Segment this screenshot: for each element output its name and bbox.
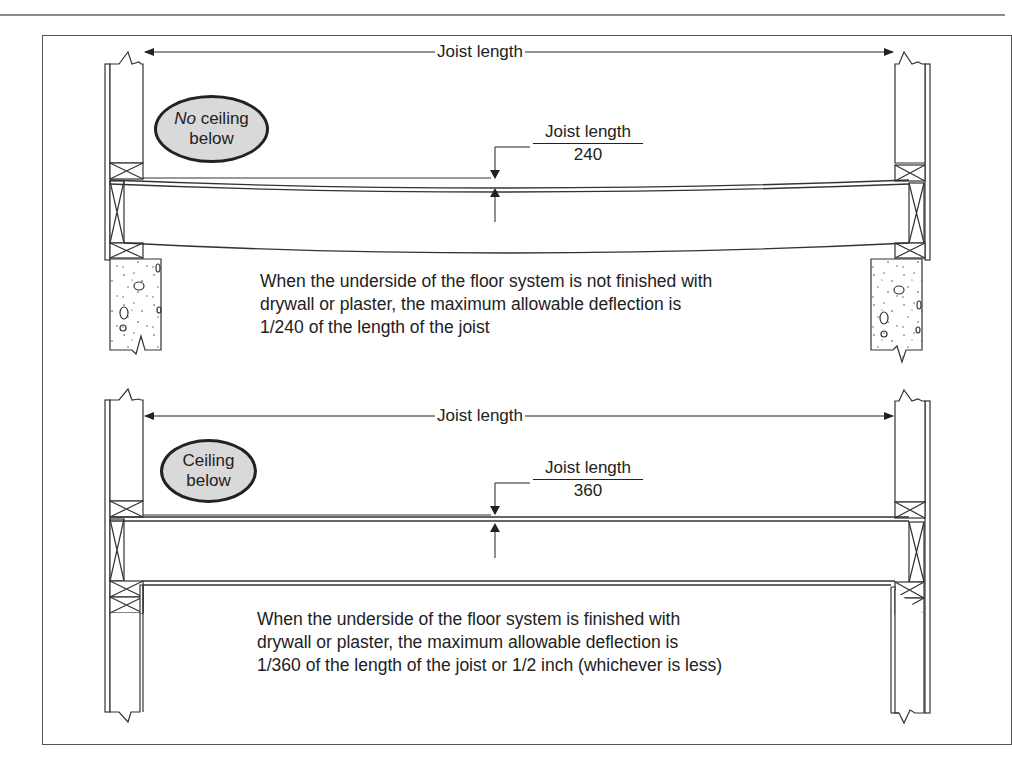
bubble-line1: ceiling	[196, 109, 249, 128]
right-foundation	[871, 259, 922, 362]
left-wall-bottom	[105, 389, 143, 722]
fraction-denominator: 240	[533, 144, 643, 165]
joist-bottom-top	[124, 243, 909, 253]
right-wall-bottom	[891, 390, 930, 723]
deflection-fraction-240: Joist length 240	[533, 122, 643, 165]
description-line: 1/360 of the length of the joist or 1/2 …	[257, 654, 722, 677]
description-line: 1/240 of the length of the joist	[260, 316, 712, 339]
description-top: When the underside of the floor system i…	[260, 270, 712, 339]
fraction-numerator: Joist length	[533, 458, 643, 480]
no-ceiling-bubble: No ceiling below	[154, 95, 269, 163]
left-foundation	[110, 259, 161, 354]
span-label-bottom: Joist length	[435, 406, 525, 426]
deflection-fraction-360: Joist length 360	[533, 458, 643, 501]
description-line: drywall or plaster, the maximum allowabl…	[260, 293, 712, 316]
fraction-numerator: Joist length	[533, 122, 643, 144]
bubble-emphasis: No	[174, 109, 196, 128]
description-line: When the underside of the floor system i…	[260, 270, 712, 293]
left-wall-top	[105, 52, 143, 260]
bubble-line2: below	[163, 471, 254, 491]
description-line: When the underside of the floor system i…	[257, 608, 722, 631]
ceiling-below-bubble: Ceiling below	[160, 439, 257, 503]
description-bottom: When the underside of the floor system i…	[257, 608, 722, 677]
description-line: drywall or plaster, the maximum allowabl…	[257, 631, 722, 654]
subfloor-top	[110, 180, 909, 188]
fraction-denominator: 360	[533, 480, 643, 501]
bubble-line2: below	[157, 129, 266, 149]
right-wall-top	[895, 52, 930, 260]
bubble-line1: Ceiling	[163, 451, 254, 471]
span-label-top: Joist length	[435, 42, 525, 62]
